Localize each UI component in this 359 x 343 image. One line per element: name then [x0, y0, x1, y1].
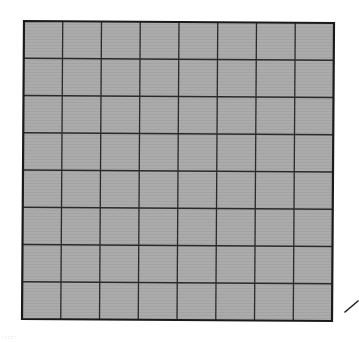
pointer-line-icon: [345, 301, 358, 312]
square-grid-diagram: [0, 0, 359, 343]
faint-scan-mark: ·:::·: [2, 333, 17, 340]
diagram-canvas: ·:::·: [0, 0, 359, 343]
